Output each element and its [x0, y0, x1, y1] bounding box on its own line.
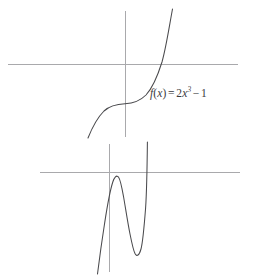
function-label-top: f(x)=2x3−1 [150, 88, 207, 100]
plot-area-bottom [0, 140, 255, 275]
cubic-graph-top: f(x)=2x3−1 [0, 0, 255, 140]
curve-2x3-minus-1 [88, 9, 173, 138]
plot-area-top [0, 0, 255, 140]
cubic-graph-bottom: f(x)=x3−7x2+2x+1 [0, 140, 255, 275]
curve-x3-minus-7x2-plus-2x-plus-1 [98, 142, 148, 274]
